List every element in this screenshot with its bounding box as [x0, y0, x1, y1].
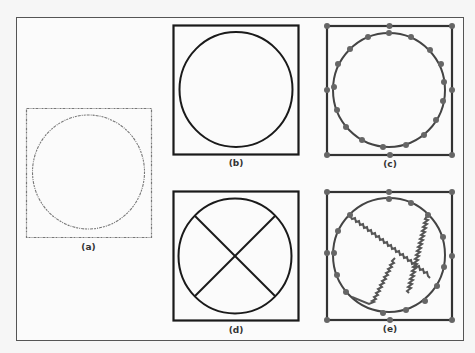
outer-frame — [17, 18, 464, 341]
panel-label-d: (d) — [229, 325, 244, 335]
panel-label-c: (c) — [383, 159, 397, 169]
panel-label-a: (a) — [81, 242, 95, 252]
panel-label-e: (e) — [383, 324, 397, 334]
panel-label-b: (b) — [229, 158, 244, 168]
figure-canvas: (a) (b) (c) (d) — [0, 0, 475, 353]
